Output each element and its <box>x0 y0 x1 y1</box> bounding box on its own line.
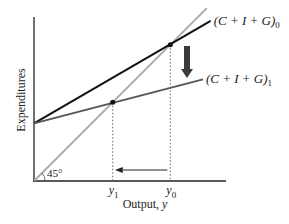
angle-label: 45° <box>47 167 62 179</box>
shift-down-arrow <box>181 46 193 78</box>
curve-label-1: (C + I + G)1 <box>206 71 272 88</box>
equilibrium-point-y0 <box>168 42 173 47</box>
series-line-2 <box>34 79 203 123</box>
keynesian-cross-diagram: 45° Expenditures Output, y y1y0 (C + I +… <box>0 0 289 224</box>
x-axis-label: Output, y <box>123 197 168 211</box>
tick-label-y1: y1 <box>108 183 119 200</box>
angle-arc-45 <box>42 173 45 181</box>
equilibrium-point-y1 <box>110 100 115 105</box>
curve-label-0: (C + I + G)0 <box>214 13 281 30</box>
y-axis-label: Expenditures <box>14 68 28 132</box>
x-axis-label-text: Output, <box>123 197 162 211</box>
series-line-0 <box>34 8 207 181</box>
